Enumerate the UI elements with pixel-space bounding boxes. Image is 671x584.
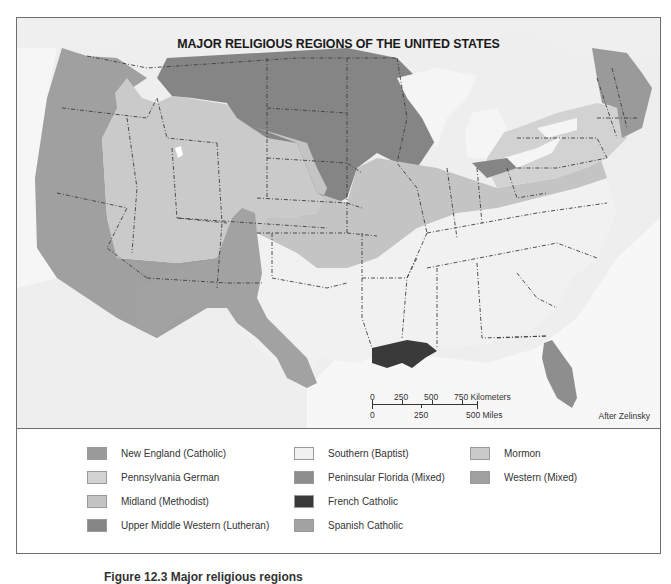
legend-swatch [294, 447, 314, 460]
legend-swatch [87, 519, 107, 532]
scale-tick [421, 404, 422, 408]
legend-item-peninsular-florida: Peninsular Florida (Mixed) [294, 469, 445, 485]
scale-tick [432, 400, 433, 404]
legend-item-western-mixed: Western (Mixed) [470, 469, 577, 485]
legend-item-spanish-catholic: Spanish Catholic [294, 517, 403, 533]
map-legend: New England (Catholic) Pennsylvania Germ… [17, 429, 660, 553]
legend-label: New England (Catholic) [121, 448, 226, 459]
legend-item-french-catholic: French Catholic [294, 493, 398, 509]
figure-caption: Figure 12.3 Major religious regions [104, 570, 303, 584]
legend-item-mormon: Mormon [470, 445, 541, 461]
us-religious-regions-map [17, 18, 660, 428]
map-panel: MAJOR RELIGIOUS REGIONS OF THE UNITED ST… [17, 18, 660, 429]
scale-line [372, 404, 477, 405]
legend-swatch [87, 471, 107, 484]
scale-mi-0: 0 [370, 410, 375, 420]
legend-item-new-england: New England (Catholic) [87, 445, 226, 461]
legend-label: Midland (Methodist) [121, 496, 209, 507]
legend-item-upper-midwest: Upper Middle Western (Lutheran) [87, 517, 269, 533]
legend-swatch [470, 471, 490, 484]
scale-bar: 0 250 500 750 Kilometers 0 250 500 Miles [369, 391, 539, 425]
map-title: MAJOR RELIGIOUS REGIONS OF THE UNITED ST… [43, 36, 635, 51]
legend-item-midland: Midland (Methodist) [87, 493, 209, 509]
scale-tick [462, 400, 463, 404]
map-credit: After Zelinsky [599, 411, 651, 421]
legend-label: Pennsylvania German [121, 472, 219, 483]
scale-mi-500: 500 Miles [466, 410, 502, 420]
scale-tick [402, 400, 403, 404]
scale-mi-250: 250 [414, 410, 428, 420]
legend-label: Peninsular Florida (Mixed) [328, 472, 445, 483]
legend-label: French Catholic [328, 496, 398, 507]
legend-swatch [87, 495, 107, 508]
legend-label: Upper Middle Western (Lutheran) [121, 520, 269, 531]
legend-label: Spanish Catholic [328, 520, 403, 531]
legend-swatch [87, 447, 107, 460]
legend-item-southern: Southern (Baptist) [294, 445, 409, 461]
legend-item-pennsylvania-german: Pennsylvania German [87, 469, 219, 485]
legend-swatch [294, 471, 314, 484]
legend-label: Western (Mixed) [504, 472, 577, 483]
legend-swatch [294, 519, 314, 532]
scale-tick [477, 401, 478, 409]
legend-label: Mormon [504, 448, 541, 459]
scale-tick [372, 400, 373, 409]
map-figure-frame: MAJOR RELIGIOUS REGIONS OF THE UNITED ST… [16, 17, 661, 554]
legend-swatch [294, 495, 314, 508]
legend-swatch [470, 447, 490, 460]
legend-label: Southern (Baptist) [328, 448, 409, 459]
